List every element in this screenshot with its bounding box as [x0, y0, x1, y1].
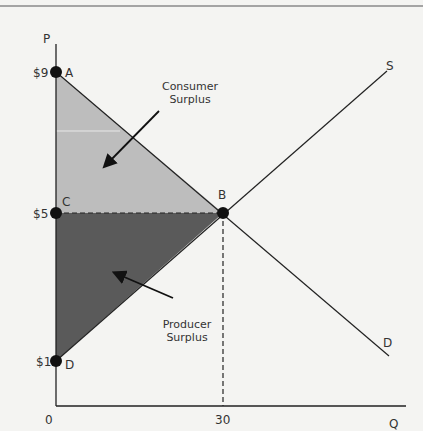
point-a-marker	[50, 66, 62, 78]
y-axis-label: P	[43, 32, 50, 46]
consumer-surplus-label-line2: Surplus	[169, 93, 210, 106]
y-tick-5: $5	[33, 207, 48, 221]
point-d-marker	[50, 355, 62, 367]
point-c-marker	[50, 207, 62, 219]
producer-surplus-label-line2: Surplus	[166, 331, 207, 344]
x-tick-30: 30	[215, 413, 230, 427]
x-axis-label: Q	[389, 417, 398, 431]
consumer-surplus-label-line1: Consumer	[162, 80, 219, 93]
point-b-label: B	[218, 188, 226, 202]
point-a-label: A	[65, 66, 74, 80]
y-tick-1: $1	[36, 355, 51, 369]
x-tick-0: 0	[45, 413, 53, 427]
point-d-label: D	[65, 358, 74, 372]
demand-curve-label: D	[383, 336, 392, 350]
surplus-chart: P Q $9 $5 $1 0 30 A C D B S D Consumer S…	[0, 0, 423, 431]
producer-surplus-label-line1: Producer	[163, 318, 212, 331]
supply-curve-label: S	[386, 59, 394, 73]
y-tick-9: $9	[33, 66, 48, 80]
point-b-marker	[217, 207, 229, 219]
point-c-label: C	[62, 195, 70, 209]
